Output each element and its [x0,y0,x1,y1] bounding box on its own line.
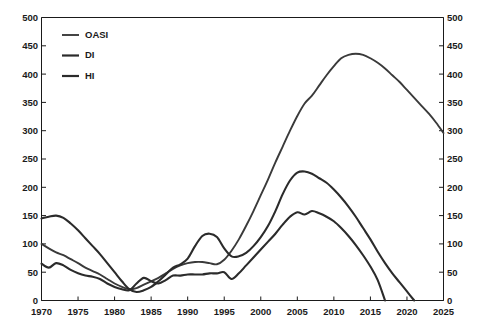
y-tick-label-left: 0 [33,295,38,306]
series-line-hi [42,211,386,300]
chart-canvas: 050100150200250300350400450500 050100150… [0,0,485,327]
legend-label-hi: HI [85,70,95,81]
x-tick-label: 2015 [360,306,382,317]
y-tick-label-left: 100 [22,238,38,249]
y-tick-label-left: 50 [27,267,38,278]
x-tick-label: 1980 [104,306,125,317]
y-tick-label-left: 200 [22,182,38,193]
line-chart: 050100150200250300350400450500 050100150… [0,0,485,327]
x-tick-label: 1990 [177,306,198,317]
x-tick-label: 2000 [250,306,271,317]
y-tick-label-left: 250 [22,153,38,164]
y-tick-label-right: 0 [447,295,452,306]
y-tick-label-left: 300 [22,125,38,136]
chart-legend: OASIDIHI [62,29,108,81]
y-tick-label-left: 400 [22,69,38,80]
y-tick-label-right: 100 [447,238,463,249]
x-axis-ticks: 1970197519801985199019952000200520102015… [31,297,455,317]
x-tick-label: 2025 [433,306,455,317]
series-line-di [42,171,415,300]
series-line-oasi [42,54,444,289]
y-tick-label-right: 500 [447,12,463,23]
y-tick-label-left: 150 [22,210,38,221]
y-tick-label-right: 400 [447,69,463,80]
y-tick-label-right: 450 [447,40,463,51]
y-tick-label-left: 350 [22,97,38,108]
x-tick-label: 1985 [141,306,163,317]
y-tick-label-right: 300 [447,125,463,136]
data-series [42,54,444,301]
y-tick-label-left: 500 [22,12,38,23]
x-tick-label: 1995 [214,306,236,317]
y-tick-label-left: 450 [22,40,38,51]
x-tick-label: 2005 [287,306,309,317]
y-tick-label-right: 200 [447,182,463,193]
y-tick-label-right: 50 [447,267,458,278]
axes [42,18,444,301]
y-tick-label-right: 150 [447,210,463,221]
x-tick-label: 2020 [396,306,417,317]
legend-label-di: DI [85,49,95,60]
x-tick-label: 2010 [323,306,344,317]
y-axis-left-ticks: 050100150200250300350400450500 [22,12,46,306]
y-tick-label-right: 350 [447,97,463,108]
legend-label-oasi: OASI [85,29,108,40]
x-tick-label: 1975 [67,306,89,317]
y-axis-right-ticks: 050100150200250300350400450500 [439,12,463,306]
y-tick-label-right: 250 [447,153,463,164]
x-tick-label: 1970 [31,306,52,317]
